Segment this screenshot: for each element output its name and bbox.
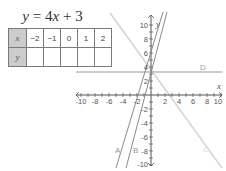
line-label-d: D bbox=[200, 63, 206, 72]
line-a bbox=[116, 12, 163, 168]
y-tick-label: -8 bbox=[141, 147, 148, 156]
x-tick-label: -4 bbox=[120, 97, 127, 106]
x-tick-label: -8 bbox=[92, 97, 99, 106]
x-tick-label: -6 bbox=[106, 97, 113, 106]
line-label-c: C bbox=[203, 145, 209, 154]
y-tick-label: 6 bbox=[144, 49, 148, 58]
y-tick-label: 10 bbox=[140, 21, 148, 30]
y-tick-label: 8 bbox=[144, 35, 148, 44]
x-tick-label: -10 bbox=[76, 97, 87, 106]
x-tick-label: -2 bbox=[134, 97, 141, 106]
x-tick-label: 8 bbox=[205, 97, 209, 106]
y-tick-label: -4 bbox=[141, 119, 148, 128]
coordinate-graph: -10 -8 -6 -4 -2 2 4 6 8 10 10 8 6 4 2 -2… bbox=[0, 0, 226, 171]
line-label-a: A bbox=[115, 146, 121, 155]
x-tick-label: 4 bbox=[177, 97, 181, 106]
y-axis-label: y bbox=[155, 19, 160, 29]
x-axis-label: x bbox=[216, 81, 221, 91]
line-label-b: B bbox=[133, 146, 138, 155]
y-tick-label: -10 bbox=[137, 160, 148, 169]
y-tick-label: 4 bbox=[144, 63, 148, 72]
y-tick-label: -2 bbox=[141, 105, 148, 114]
x-tick-label: 6 bbox=[191, 97, 195, 106]
x-tick-label: 2 bbox=[163, 97, 167, 106]
y-tick-label: -6 bbox=[141, 133, 148, 142]
x-tick-label: 10 bbox=[214, 97, 222, 106]
y-tick-label: 2 bbox=[144, 77, 148, 86]
